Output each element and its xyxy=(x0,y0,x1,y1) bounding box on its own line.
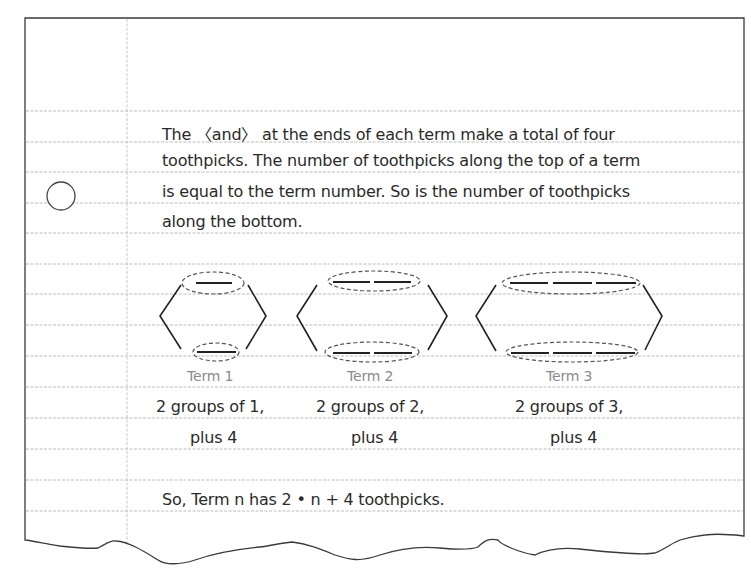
paragraph-line-1: The 〈and〉 at the ends of each term make … xyxy=(162,121,615,145)
conclusion-text: So, Term n has 2 • n + 4 toothpicks. xyxy=(162,490,445,509)
notebook-paper xyxy=(0,0,751,575)
left-angle-bracket xyxy=(297,285,317,351)
term-2-label: Term 2 xyxy=(347,368,393,384)
left-angle-bracket xyxy=(160,285,181,349)
term-3-label: Term 3 xyxy=(546,368,592,384)
right-angle-bracket xyxy=(643,285,662,350)
term-1-diagram xyxy=(160,272,266,361)
term-2-caption-line-2: plus 4 xyxy=(351,428,398,447)
term-1-label: Term 1 xyxy=(187,368,233,384)
paragraph-line-2: toothpicks. The number of toothpicks alo… xyxy=(162,151,640,170)
term-3-caption-line-2: plus 4 xyxy=(550,428,597,447)
term-3-caption-line-1: 2 groups of 3, xyxy=(515,397,623,416)
paper-border xyxy=(25,18,744,564)
ruled-lines xyxy=(26,111,743,511)
term-2-caption-line-1: 2 groups of 2, xyxy=(316,397,424,416)
term-1-caption-line-2: plus 4 xyxy=(190,428,237,447)
right-angle-bracket xyxy=(428,285,447,350)
paragraph-line-3: is equal to the term number. So is the n… xyxy=(162,182,630,201)
right-angle-bracket xyxy=(246,285,266,349)
term-1-caption-line-1: 2 groups of 1, xyxy=(156,397,264,416)
term-3-diagram xyxy=(476,272,662,362)
left-angle-bracket xyxy=(476,285,496,351)
term-2-diagram xyxy=(297,271,447,362)
hole-punch-circle xyxy=(47,182,75,210)
paragraph-line-4: along the bottom. xyxy=(162,212,302,231)
